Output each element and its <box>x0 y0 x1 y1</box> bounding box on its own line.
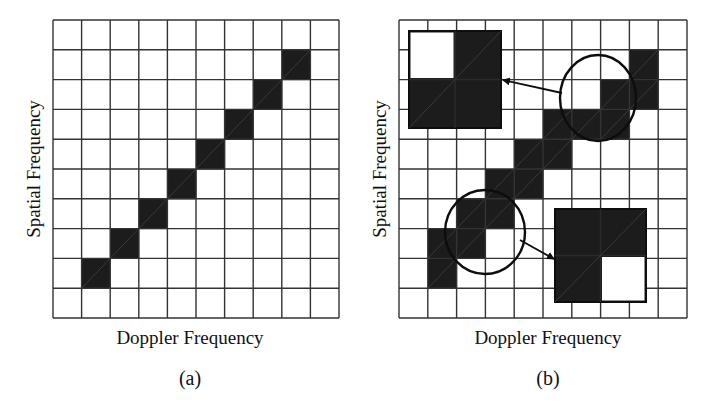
panel-b-x-axis-label: Doppler Frequency <box>474 327 622 348</box>
panel-a-x-axis-label: Doppler Frequency <box>116 327 264 348</box>
panel-a-y-axis-label: Spatial Frequency <box>23 100 44 238</box>
panel-b-caption: (b) <box>536 367 559 390</box>
inset-empty-quadrant <box>411 33 454 79</box>
figure-canvas: Doppler Frequency Spatial Frequency (a) … <box>0 0 704 410</box>
panel-b-y-axis-label: Spatial Frequency <box>369 100 390 238</box>
inset-empty-quadrant <box>602 257 645 301</box>
figure: Doppler Frequency Spatial Frequency (a) … <box>0 0 704 410</box>
panel-a-caption: (a) <box>179 367 201 390</box>
panel-b-staircase-diagonal: Doppler Frequency Spatial Frequency (b) <box>369 20 687 390</box>
panel-a-sparse-diagonal: Doppler Frequency Spatial Frequency (a) <box>23 20 339 390</box>
